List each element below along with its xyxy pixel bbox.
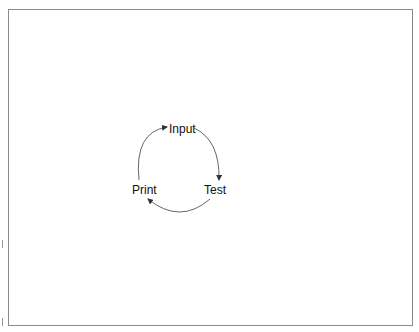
node-print: Print <box>132 183 157 197</box>
edge-test-to-print <box>148 199 210 212</box>
edge-input-to-test <box>194 128 219 180</box>
node-input: Input <box>169 122 196 136</box>
node-test: Test <box>204 183 227 197</box>
cycle-diagram: Input Test Print <box>0 0 419 332</box>
edge-print-to-input <box>138 127 167 180</box>
